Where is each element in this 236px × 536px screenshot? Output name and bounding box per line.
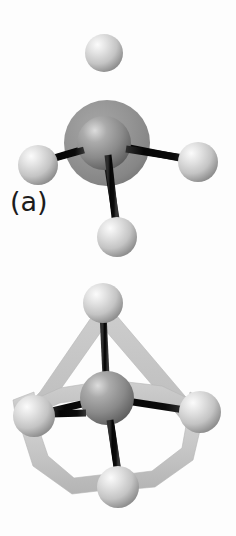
- central-atom-sphere-b: [80, 371, 134, 425]
- ligand-atom-bottom-a: [97, 217, 137, 257]
- central-atom-sphere-a: [77, 116, 131, 170]
- ligand-atom-top-b: [83, 283, 123, 323]
- panel-a-label: (a): [10, 188, 48, 215]
- panel-b: (b): [0, 268, 236, 536]
- ligand-atom-left-a: [18, 145, 58, 185]
- panel-b-diagram: [0, 268, 236, 536]
- molecular-structure-figure: (a): [0, 0, 236, 536]
- ligand-atom-right-a: [178, 142, 218, 182]
- panel-a-diagram: [0, 0, 236, 268]
- ligand-atom-top-a: [85, 34, 123, 72]
- bond-front-left-b: [50, 413, 86, 414]
- panel-a: (a): [0, 0, 236, 268]
- ligand-atom-right-b: [179, 391, 221, 433]
- ligand-atom-left-b: [13, 395, 55, 437]
- ligand-atom-bottom-b: [97, 466, 139, 508]
